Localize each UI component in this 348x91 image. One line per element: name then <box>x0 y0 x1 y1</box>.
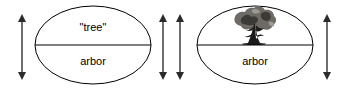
arrow-head-down-icon <box>176 72 184 80</box>
arrow-mid-right <box>176 14 184 80</box>
arrow-far-left <box>18 14 26 80</box>
semiotic-sign-diagram: "tree" arbor <box>0 0 348 91</box>
sign-left: "tree" arbor <box>35 6 151 84</box>
signifier-label-left: "tree" <box>80 21 107 33</box>
arrow-far-right <box>323 14 331 80</box>
diagram-canvas: "tree" arbor <box>0 0 348 91</box>
signified-label-left: arbor <box>80 55 106 67</box>
arrow-head-up-icon <box>176 14 184 22</box>
arrow-head-down-icon <box>159 72 167 80</box>
arrow-head-down-icon <box>323 72 331 80</box>
arrow-head-up-icon <box>323 14 331 22</box>
arrow-mid-left <box>159 14 167 80</box>
signified-label-right: arbor <box>242 55 268 67</box>
arrow-head-up-icon <box>18 14 26 22</box>
arrow-head-down-icon <box>18 72 26 80</box>
sign-right: arbor <box>197 6 313 84</box>
arrow-head-up-icon <box>159 14 167 22</box>
